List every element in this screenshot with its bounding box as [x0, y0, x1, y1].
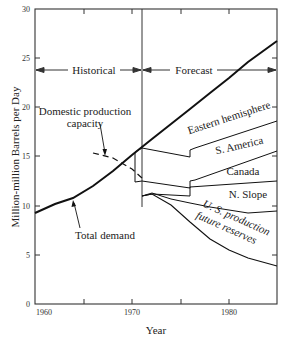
svg-text:5: 5 [26, 251, 30, 260]
svg-text:1980: 1980 [221, 308, 237, 317]
canada-label: Canada [227, 165, 260, 177]
svg-text:10: 10 [22, 202, 30, 211]
total-demand-label: Total demand [75, 229, 136, 241]
oil-demand-chart: 0 5 10 15 20 25 30 1960 1970 1980 Year M… [0, 0, 286, 344]
domestic-label-line1: Domestic production [39, 105, 132, 117]
plot-frame [35, 9, 277, 304]
svg-text:1970: 1970 [124, 308, 140, 317]
svg-text:30: 30 [22, 5, 30, 14]
x-axis-label: Year [146, 324, 167, 336]
total-demand-pointer [74, 203, 80, 228]
n-slope-label: N. Slope [229, 188, 268, 200]
svg-text:20: 20 [22, 103, 30, 112]
svg-text:0: 0 [26, 300, 30, 309]
svg-text:25: 25 [22, 54, 30, 63]
y-tick-labels: 0 5 10 15 20 25 30 [22, 5, 30, 309]
eastern-hemisphere-label: Eastern hemisphere [186, 98, 272, 136]
total-demand-arrowhead [72, 200, 77, 207]
domestic-label-line2: capacity [67, 117, 104, 129]
s-america-label: S. America [214, 134, 264, 157]
forecast-label: Forecast [175, 64, 212, 76]
y-axis-label: Million-million Barrels per Day [9, 86, 21, 227]
x-tick-labels: 1960 1970 1980 [36, 308, 237, 317]
svg-text:1960: 1960 [36, 308, 52, 317]
historical-label: Historical [72, 64, 115, 76]
svg-text:15: 15 [22, 152, 30, 161]
